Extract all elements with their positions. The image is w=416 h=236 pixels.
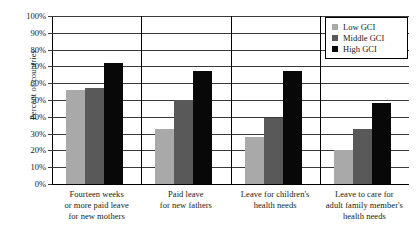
y-tick-label-50: 50% bbox=[6, 95, 46, 105]
legend-item-0[interactable]: Low GCI bbox=[326, 21, 407, 32]
category-label-0: Fourteen weeksor more paid leavefor new … bbox=[46, 189, 147, 223]
category-label-2: Leave for children'shealth needs bbox=[225, 189, 326, 211]
category-label-line: for new mothers bbox=[46, 211, 147, 222]
bar-chart: Percent of countries 100%90%80%70%60%50%… bbox=[0, 0, 416, 236]
bar-2-2 bbox=[283, 71, 302, 184]
y-tick-mark-80 bbox=[48, 50, 52, 51]
legend-swatch-icon-1 bbox=[332, 35, 338, 41]
y-tick-label-10: 10% bbox=[6, 162, 46, 172]
legend-swatch-icon-0 bbox=[332, 24, 338, 30]
bar-3-1 bbox=[353, 129, 372, 184]
group-divider-2 bbox=[231, 16, 232, 184]
group-divider-3 bbox=[320, 16, 321, 184]
bar-2-0 bbox=[245, 137, 264, 184]
category-label-line: Fourteen weeks bbox=[46, 189, 147, 200]
bar-1-1 bbox=[174, 100, 193, 184]
legend-label-1: Middle GCI bbox=[343, 33, 384, 43]
y-tick-label-70: 70% bbox=[6, 61, 46, 71]
legend-swatch-icon-2 bbox=[332, 46, 338, 52]
bar-1-2 bbox=[193, 71, 212, 184]
bar-1-0 bbox=[155, 129, 174, 184]
y-tick-label-60: 60% bbox=[6, 78, 46, 88]
y-tick-label-100: 100% bbox=[6, 11, 46, 21]
group-divider-1 bbox=[141, 16, 142, 184]
y-tick-label-30: 30% bbox=[6, 129, 46, 139]
bar-3-2 bbox=[372, 103, 391, 184]
y-tick-mark-0 bbox=[48, 184, 52, 185]
y-tick-mark-40 bbox=[48, 117, 52, 118]
category-label-line: health needs bbox=[225, 200, 326, 211]
legend-item-1[interactable]: Middle GCI bbox=[326, 32, 407, 43]
category-label-line: Leave for children's bbox=[225, 189, 326, 200]
y-tick-mark-10 bbox=[48, 167, 52, 168]
y-tick-label-40: 40% bbox=[6, 112, 46, 122]
y-tick-label-80: 80% bbox=[6, 45, 46, 55]
legend-item-2[interactable]: High GCI bbox=[326, 43, 407, 54]
y-tick-mark-20 bbox=[48, 150, 52, 151]
category-label-line: Leave to care for bbox=[314, 189, 415, 200]
legend: Low GCIMiddle GCIHigh GCI bbox=[325, 17, 408, 59]
y-tick-mark-60 bbox=[48, 83, 52, 84]
category-label-line: or more paid leave bbox=[46, 200, 147, 211]
category-label-line: adult family member's bbox=[314, 200, 415, 211]
legend-label-2: High GCI bbox=[343, 44, 377, 54]
y-tick-label-20: 20% bbox=[6, 145, 46, 155]
y-tick-label-0: 0% bbox=[6, 179, 46, 189]
category-label-3: Leave to care foradult family member'she… bbox=[314, 189, 415, 223]
bar-2-1 bbox=[264, 118, 283, 184]
category-label-line: for new fathers bbox=[135, 200, 236, 211]
bar-0-2 bbox=[104, 63, 123, 184]
bar-0-0 bbox=[66, 90, 85, 184]
y-tick-mark-100 bbox=[48, 16, 52, 17]
bar-3-0 bbox=[334, 150, 353, 184]
y-tick-mark-50 bbox=[48, 100, 52, 101]
legend-label-0: Low GCI bbox=[343, 22, 375, 32]
bar-0-1 bbox=[85, 88, 104, 184]
y-tick-mark-70 bbox=[48, 66, 52, 67]
y-tick-mark-30 bbox=[48, 134, 52, 135]
grid-line-0 bbox=[52, 184, 409, 185]
category-label-line: Paid leave bbox=[135, 189, 236, 200]
category-label-1: Paid leavefor new fathers bbox=[135, 189, 236, 211]
y-tick-mark-90 bbox=[48, 33, 52, 34]
category-label-line: health needs bbox=[314, 211, 415, 222]
y-tick-label-90: 90% bbox=[6, 28, 46, 38]
